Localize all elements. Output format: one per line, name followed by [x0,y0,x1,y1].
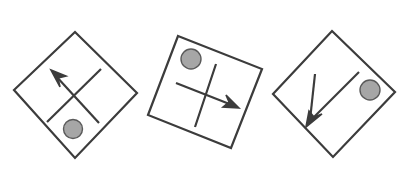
figure-3-gray-circle [360,80,380,100]
figure-2 [148,36,262,148]
figure-2-square-outline [148,36,262,148]
figure-canvas [0,0,413,177]
figure-1 [14,32,137,158]
figure-2-gray-circle [181,49,201,69]
figure-1-gray-circle [64,120,83,139]
figure-3 [273,31,395,157]
